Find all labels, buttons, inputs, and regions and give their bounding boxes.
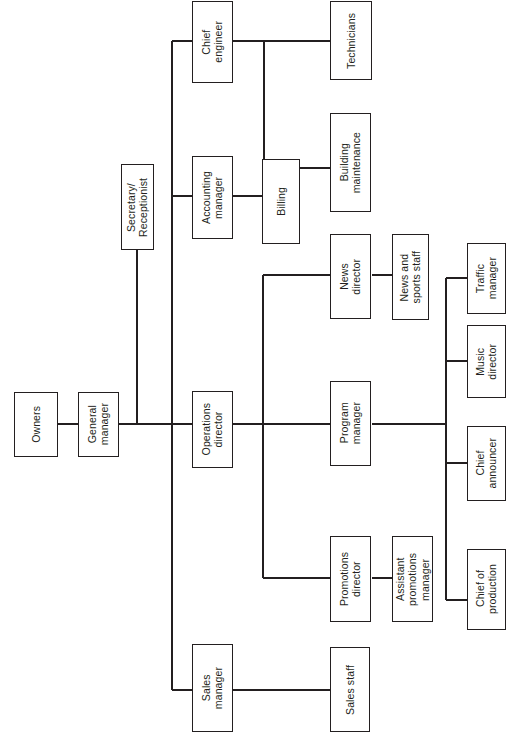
node-technicians[interactable]: Technicians	[330, 1, 372, 80]
node-news-director[interactable]: News director	[330, 234, 371, 319]
node-operations-director[interactable]: Operations director	[192, 391, 233, 468]
node-operations-director-label: Operations director	[200, 403, 225, 455]
node-secretary-receptionist-label: Secretary/ Receptionist	[125, 178, 150, 237]
node-owners[interactable]: Owners	[14, 392, 58, 457]
node-chief-announcer[interactable]: Chief announcer	[467, 426, 506, 501]
node-music-director-label: Music director	[474, 344, 499, 380]
node-traffic-manager[interactable]: Traffic manager	[467, 243, 506, 314]
node-news-director-label: News director	[338, 259, 363, 295]
node-building-maintenance[interactable]: Building maintenance	[330, 113, 371, 212]
node-program-manager[interactable]: Program manager	[330, 381, 371, 466]
node-promotions-director[interactable]: Promotions director	[330, 536, 371, 622]
node-promotions-director-label: Promotions director	[338, 552, 363, 606]
node-technicians-label: Technicians	[345, 13, 357, 69]
node-chief-engineer-label: Chief engineer	[200, 21, 225, 63]
node-chief-engineer[interactable]: Chief engineer	[192, 1, 233, 83]
node-traffic-manager-label: Traffic manager	[474, 257, 499, 299]
node-music-director[interactable]: Music director	[467, 325, 506, 398]
node-accounting-manager-label: Accounting manager	[200, 171, 225, 224]
node-chief-of-production-label: Chief of production	[474, 564, 499, 614]
node-building-maintenance-label: Building maintenance	[338, 132, 363, 193]
node-assistant-promotions-manager[interactable]: Assistant promotions manager	[392, 536, 433, 622]
node-chief-announcer-label: Chief announcer	[474, 438, 499, 489]
node-news-and-sports-staff-label: News and sports staff	[398, 251, 423, 303]
node-general-manager-label: General manager	[86, 403, 111, 445]
node-sales-manager-label: Sales manager	[200, 667, 225, 709]
node-owners-label: Owners	[30, 406, 42, 443]
node-accounting-manager[interactable]: Accounting manager	[192, 156, 233, 239]
node-assistant-promotions-manager-label: Assistant promotions manager	[394, 553, 431, 606]
connector-lines	[0, 0, 517, 738]
node-general-manager[interactable]: General manager	[78, 392, 119, 457]
node-billing[interactable]: Billing	[262, 159, 300, 244]
node-sales-staff[interactable]: Sales staff	[330, 647, 370, 732]
org-chart: Owners General manager Secretary/ Recept…	[0, 0, 517, 738]
node-sales-staff-label: Sales staff	[344, 665, 356, 715]
node-sales-manager[interactable]: Sales manager	[192, 644, 233, 732]
node-chief-of-production[interactable]: Chief of production	[467, 549, 506, 630]
node-news-and-sports-staff[interactable]: News and sports staff	[392, 234, 429, 320]
node-secretary-receptionist[interactable]: Secretary/ Receptionist	[121, 164, 154, 250]
node-billing-label: Billing	[275, 187, 287, 216]
node-program-manager-label: Program manager	[338, 402, 363, 444]
